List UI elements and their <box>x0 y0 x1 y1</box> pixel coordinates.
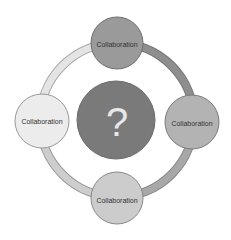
node-right-label: Collaboration <box>171 120 212 127</box>
node-left-label: Collaboration <box>21 118 62 125</box>
node-top-label: Collaboration <box>96 41 137 48</box>
center-question-mark: ? <box>106 100 128 145</box>
node-bottom-label: Collaboration <box>96 197 137 204</box>
